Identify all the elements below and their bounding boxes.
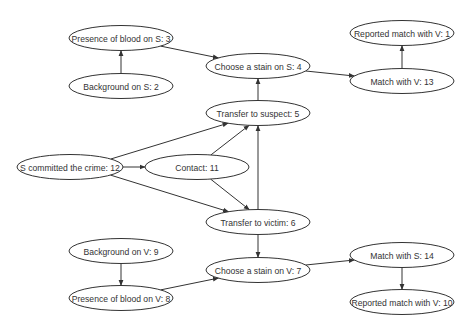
node-reported-match-with-v-10[interactable]: Reported match with V: 10 [350, 290, 454, 315]
node-label: Transfer to victim: 6 [220, 218, 295, 228]
node-choose-a-stain-on-v[interactable]: Choose a stain on V: 7 [206, 258, 310, 283]
node-label: Background on V: 9 [83, 247, 158, 257]
node-label: Contact: 11 [175, 163, 219, 173]
node-presence-of-blood-on-v[interactable]: Presence of blood on V: 8 [69, 286, 173, 311]
node-background-on-v[interactable]: Background on V: 9 [69, 239, 173, 264]
node-match-with-s[interactable]: Match with S: 14 [350, 243, 454, 268]
bayesian-network-diagram: Presence of blood on S: 3 Background on … [0, 0, 473, 326]
edge-arrow [211, 179, 250, 210]
nodes-layer: Presence of blood on S: 3 Background on … [17, 21, 454, 315]
node-s-committed-the-crime[interactable]: S committed the crime: 12 [17, 155, 123, 180]
node-label: S committed the crime: 12 [20, 163, 120, 173]
node-label: Match with V: 13 [370, 77, 433, 87]
node-choose-a-stain-on-s[interactable]: Choose a stain on S: 4 [206, 54, 310, 79]
node-label: Presence of blood on S: 3 [72, 34, 171, 44]
edge-arrow [111, 175, 229, 212]
edge-arrow [161, 46, 219, 58]
node-reported-match-with-v-1[interactable]: Reported match with V: 1 [350, 21, 454, 46]
edge-arrow [306, 71, 355, 76]
node-background-on-s[interactable]: Background on S: 2 [69, 74, 173, 99]
node-transfer-to-suspect[interactable]: Transfer to suspect: 5 [206, 101, 310, 126]
node-match-with-v[interactable]: Match with V: 13 [350, 69, 454, 94]
node-label: Background on S: 2 [83, 82, 159, 92]
node-presence-of-blood-on-s[interactable]: Presence of blood on S: 3 [69, 26, 173, 51]
node-label: Transfer to suspect: 5 [217, 109, 300, 119]
edge-arrow [161, 278, 219, 290]
node-label: Choose a stain on S: 4 [215, 62, 302, 72]
node-label: Presence of blood on V: 8 [72, 294, 171, 304]
node-label: Reported match with V: 1 [354, 29, 450, 39]
node-transfer-to-victim[interactable]: Transfer to victim: 6 [206, 210, 310, 235]
node-label: Reported match with V: 10 [352, 298, 453, 308]
node-label: Choose a stain on V: 7 [215, 266, 302, 276]
edge-arrow [211, 125, 249, 155]
node-contact[interactable]: Contact: 11 [145, 155, 249, 180]
node-label: Match with S: 14 [370, 251, 434, 261]
edge-arrow [306, 260, 355, 265]
edge-arrow [111, 123, 228, 159]
